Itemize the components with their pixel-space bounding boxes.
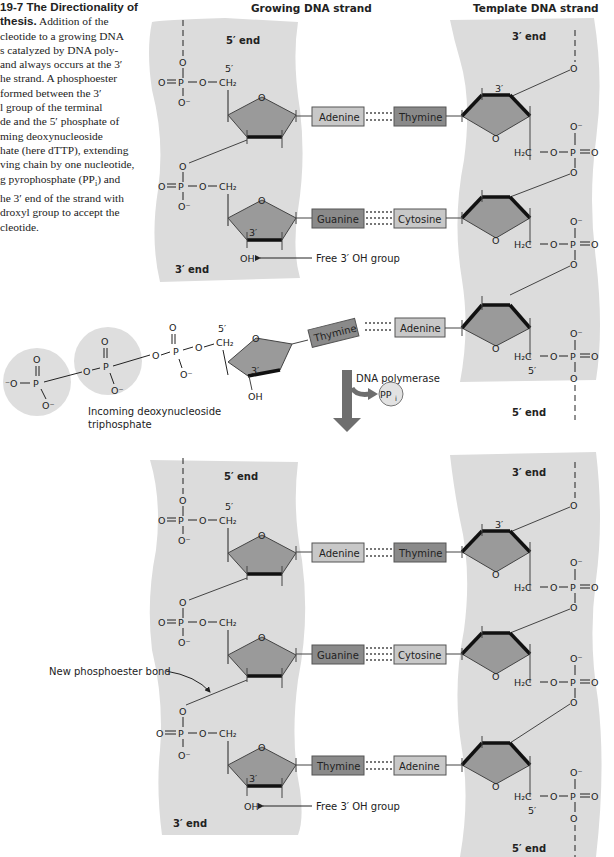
svg-text:H₂C: H₂C — [514, 147, 532, 158]
svg-text:H₂C: H₂C — [514, 582, 532, 593]
svg-text:O: O — [591, 147, 598, 158]
svg-text:Cytosine: Cytosine — [398, 650, 441, 661]
svg-text:P: P — [178, 617, 184, 628]
base-pair-incoming-thymine-adenine: Thymine Adenine — [308, 318, 462, 347]
svg-text:O: O — [550, 677, 557, 688]
svg-text:Adenine: Adenine — [319, 112, 360, 123]
svg-text:O⁻: O⁻ — [570, 121, 583, 132]
svg-text:⁻O: ⁻O — [5, 378, 18, 389]
svg-text:O: O — [492, 781, 499, 792]
svg-text:O: O — [492, 235, 499, 246]
svg-text:CH₂: CH₂ — [219, 181, 237, 192]
svg-text:Incoming deoxynucleoside: Incoming deoxynucleoside — [88, 406, 221, 417]
svg-text:P: P — [570, 791, 576, 802]
svg-text:New phosphoester bond: New phosphoester bond — [49, 666, 171, 677]
svg-text:O: O — [156, 728, 163, 739]
svg-text:5′: 5′ — [528, 805, 536, 816]
svg-text:Guanine: Guanine — [317, 214, 359, 225]
svg-text:O: O — [591, 791, 598, 802]
svg-text:5′: 5′ — [218, 323, 226, 334]
svg-text:O: O — [258, 632, 265, 643]
svg-text:O: O — [179, 161, 186, 172]
svg-text:5′ end: 5′ end — [226, 35, 260, 46]
svg-text:H₂C: H₂C — [514, 791, 532, 802]
svg-text:CH₂: CH₂ — [216, 337, 234, 348]
svg-text:O: O — [492, 133, 499, 144]
svg-text:O⁻: O⁻ — [570, 328, 583, 339]
svg-text:O: O — [258, 195, 265, 206]
svg-text:O: O — [258, 742, 265, 753]
svg-text:O⁻: O⁻ — [178, 637, 191, 648]
svg-text:O⁻: O⁻ — [570, 216, 583, 227]
svg-text:O⁻: O⁻ — [178, 750, 191, 761]
svg-text:H₂C: H₂C — [514, 351, 532, 362]
svg-text:CH₂: CH₂ — [219, 77, 237, 88]
svg-text:O: O — [101, 336, 108, 347]
svg-text:O: O — [179, 706, 186, 717]
svg-text:O: O — [179, 597, 186, 608]
base-pair-guanine-cytosine-top: Guanine Cytosine — [312, 209, 462, 228]
svg-text:O⁻: O⁻ — [570, 767, 583, 778]
svg-text:CH₂: CH₂ — [219, 515, 237, 526]
svg-text:O: O — [199, 728, 206, 739]
svg-text:H₂C: H₂C — [514, 239, 532, 250]
svg-text:OH: OH — [248, 391, 263, 402]
svg-text:3′ end: 3′ end — [175, 264, 209, 275]
svg-text:O: O — [83, 366, 90, 377]
svg-text:Guanine: Guanine — [317, 650, 359, 661]
svg-text:3′: 3′ — [495, 519, 503, 530]
pyrophosphate-product: PP i — [379, 382, 403, 406]
svg-text:P: P — [178, 77, 184, 88]
svg-text:P: P — [570, 677, 576, 688]
svg-text:P: P — [178, 181, 184, 192]
svg-text:Adenine: Adenine — [319, 548, 360, 559]
svg-text:O: O — [152, 350, 159, 361]
svg-text:5′ end: 5′ end — [224, 471, 258, 482]
svg-text:O: O — [199, 515, 206, 526]
svg-text:O: O — [492, 569, 499, 580]
svg-text:Adenine: Adenine — [399, 761, 440, 772]
svg-text:O: O — [179, 495, 186, 506]
svg-text:5′: 5′ — [528, 365, 536, 376]
svg-text:Adenine: Adenine — [400, 323, 441, 334]
svg-text:Thymine: Thymine — [398, 112, 442, 123]
svg-text:P: P — [33, 378, 39, 389]
svg-text:O⁻: O⁻ — [180, 369, 193, 380]
svg-text:O⁻: O⁻ — [178, 97, 191, 108]
svg-text:O: O — [550, 147, 557, 158]
svg-text:O: O — [199, 617, 206, 628]
svg-text:O: O — [550, 582, 557, 593]
svg-text:O: O — [570, 167, 577, 178]
svg-text:O⁻: O⁻ — [178, 535, 191, 546]
svg-text:P: P — [570, 239, 576, 250]
svg-text:O: O — [570, 259, 577, 270]
svg-text:OH: OH — [244, 801, 259, 812]
svg-text:H₂C: H₂C — [514, 677, 532, 688]
svg-text:3′: 3′ — [251, 365, 259, 376]
svg-text:PP: PP — [380, 389, 392, 400]
svg-text:Thymine: Thymine — [398, 548, 442, 559]
svg-text:O: O — [179, 57, 186, 68]
svg-text:O: O — [591, 351, 598, 362]
svg-text:O: O — [158, 617, 165, 628]
svg-text:P: P — [570, 147, 576, 158]
svg-text:O: O — [252, 333, 259, 344]
svg-text:CH₂: CH₂ — [219, 617, 237, 628]
svg-text:3′: 3′ — [249, 773, 257, 784]
svg-text:O: O — [591, 677, 598, 688]
svg-text:O: O — [492, 671, 499, 682]
svg-text:O: O — [570, 373, 577, 384]
svg-text:5′: 5′ — [225, 501, 233, 512]
svg-text:O: O — [591, 239, 598, 250]
svg-text:O: O — [158, 515, 165, 526]
svg-text:O: O — [169, 322, 176, 333]
growing-strand-panel-top — [149, 18, 303, 282]
svg-text:O: O — [258, 530, 265, 541]
svg-text:Cytosine: Cytosine — [398, 214, 441, 225]
svg-text:i: i — [395, 395, 397, 403]
svg-text:O: O — [195, 342, 202, 353]
svg-text:O: O — [158, 77, 165, 88]
svg-text:P: P — [570, 582, 576, 593]
dna-synthesis-diagram: 5′ end O O P O CH₂ 5′ O⁻ O O O P O CH₂ O… — [0, 0, 614, 857]
svg-text:3′ end: 3′ end — [512, 31, 546, 42]
